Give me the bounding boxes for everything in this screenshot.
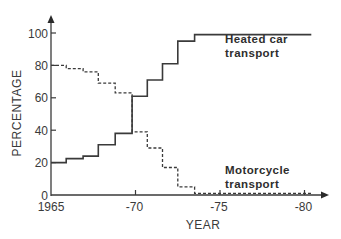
y-axis-arrow <box>48 15 55 23</box>
y-tick-label: 100 <box>28 27 48 41</box>
x-ticks: 1965-70-75-80 <box>38 190 313 214</box>
annotation-motorcycle-line-0: Motorcycle <box>225 164 290 176</box>
y-ticks: 020406080100 <box>28 27 56 203</box>
y-axis-title: PERCENTAGE <box>10 70 24 157</box>
x-axis-title: YEAR <box>186 218 221 232</box>
x-tick-label: -80 <box>295 200 313 214</box>
x-axis-arrow <box>321 192 329 199</box>
chart: 020406080100 1965-70-75-80 Heated cartra… <box>0 0 341 239</box>
y-tick-label: 40 <box>35 124 49 138</box>
y-tick-label: 80 <box>35 59 49 73</box>
y-tick-label: 20 <box>35 156 49 170</box>
annotation-heated-car-line-0: Heated car <box>225 33 288 45</box>
x-tick-label: -75 <box>210 200 228 214</box>
annotation-heated-car-line-1: transport <box>225 47 279 59</box>
x-tick-label: 1965 <box>38 200 65 214</box>
y-tick-label: 60 <box>35 91 49 105</box>
annotation-motorcycle-line-1: transport <box>225 178 279 190</box>
x-tick-label: -70 <box>126 200 144 214</box>
annotations: Heated cartransportMotorcycletransport <box>225 33 290 190</box>
